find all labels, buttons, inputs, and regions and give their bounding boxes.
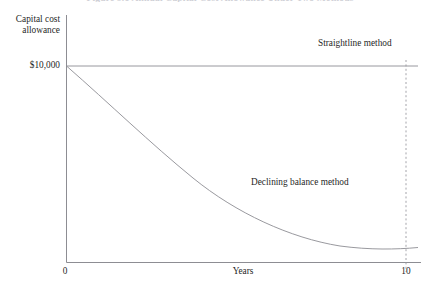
y-axis-label: Capital cost allowance xyxy=(6,14,60,36)
series-label-straightline: Straightline method xyxy=(318,38,392,48)
x-axis-label: Years xyxy=(218,266,268,277)
y-axis-tick-10000: $10,000 xyxy=(6,60,60,71)
figure-annual-capital-cost-allowance: Figure 9.1 Annual Capital Cost Allowance… xyxy=(0,0,440,302)
series-line-declining-balance xyxy=(67,66,419,249)
x-axis-tick-10: 10 xyxy=(396,266,416,277)
series-label-declining-balance: Declining balance method xyxy=(251,177,349,187)
x-axis-tick-0: 0 xyxy=(57,266,73,277)
